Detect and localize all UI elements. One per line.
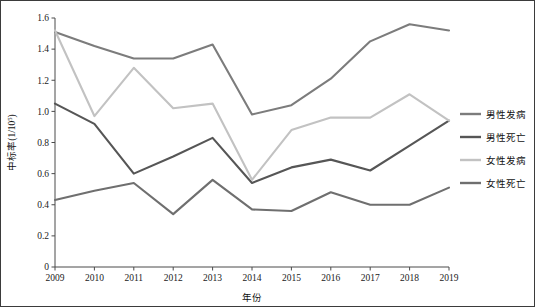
y-tick-label: 0.6 — [37, 169, 49, 179]
y-tick-label: 0.8 — [37, 138, 49, 148]
x-tick-label: 2009 — [46, 273, 65, 283]
y-tick-label: 0 — [44, 262, 49, 272]
y-tick-label: 0.4 — [37, 200, 49, 210]
x-axis-title: 年份 — [242, 292, 262, 303]
x-tick-label: 2017 — [361, 273, 380, 283]
x-tick-label: 2019 — [440, 273, 459, 283]
y-tick-label: 0.2 — [37, 231, 49, 241]
x-tick-label: 2016 — [321, 273, 340, 283]
chart-axes — [55, 18, 449, 267]
series-lines — [55, 24, 449, 214]
legend-label-0: 男性发病 — [486, 109, 526, 120]
series-line-0 — [55, 24, 449, 114]
y-tick-label: 1.6 — [37, 13, 49, 23]
line-chart: 00.20.40.60.81.01.21.41.6 20092010201120… — [1, 1, 535, 307]
legend-label-3: 女性死亡 — [486, 178, 526, 189]
y-tick-label: 1.0 — [37, 107, 49, 117]
legend-label-2: 女性发病 — [486, 155, 526, 166]
chart-figure: 00.20.40.60.81.01.21.41.6 20092010201120… — [0, 0, 535, 307]
y-axis-tick-labels: 00.20.40.60.81.01.21.41.6 — [37, 13, 55, 272]
x-tick-label: 2011 — [124, 273, 143, 283]
x-tick-label: 2014 — [243, 273, 262, 283]
x-tick-label: 2015 — [282, 273, 301, 283]
chart-legend: 男性发病男性死亡女性发病女性死亡 — [460, 109, 526, 189]
axis-spines — [55, 18, 449, 267]
y-tick-label: 1.4 — [37, 44, 49, 54]
x-tick-label: 2012 — [164, 273, 183, 283]
y-axis-title: 中标率(1/105) — [6, 114, 18, 171]
legend-label-1: 男性死亡 — [486, 132, 526, 143]
x-tick-label: 2013 — [203, 273, 222, 283]
x-tick-label: 2010 — [85, 273, 104, 283]
x-tick-label: 2018 — [400, 273, 419, 283]
y-axis-title-base: 中标率(1/10 — [6, 120, 18, 170]
y-axis-title-tail: ) — [7, 114, 18, 117]
y-tick-label: 1.2 — [37, 76, 49, 86]
x-axis-tick-labels: 2009201020112012201320142015201620172018… — [46, 267, 459, 283]
series-line-3 — [55, 180, 449, 214]
